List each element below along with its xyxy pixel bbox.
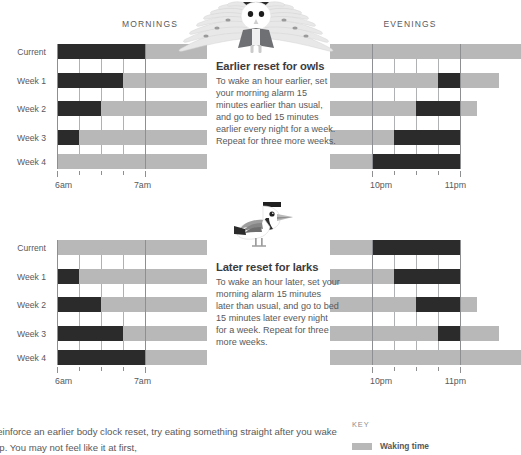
key-block: KEY Waking time [352,420,502,451]
lark-icon [233,196,295,248]
tick-mark [79,171,80,175]
axis-line-7am [145,44,146,169]
grid-line [123,255,124,269]
bar-row [330,154,471,169]
grid-line [101,145,102,155]
sleeping-time-bar [416,297,460,312]
tick-mark [101,367,102,371]
row-label-current: Current [17,47,46,57]
axis-line-11pm [460,240,461,365]
row-labels: CurrentWeek 1Week 2Week 3Week 4 [0,240,48,365]
waking-time-bar [330,73,499,88]
section-owls: MORNINGS EVENINGS CurrentWeek 1Week 2Wee… [0,0,501,200]
key-title: KEY [352,420,502,429]
axis-label-11pm: 11pm [438,180,466,190]
tick-mark [101,171,102,175]
sleeping-time-bar [57,73,123,88]
grid-line [438,255,439,269]
row-label-week-1: Week 1 [17,76,46,86]
tick-mark [460,171,461,177]
axis-label-10pm: 10pm [370,376,392,386]
bar-row [330,130,471,145]
tick-mark [438,367,439,371]
grid-line [123,116,124,130]
waking-time-bar [330,326,499,341]
waking-time-bar [145,350,207,365]
axis-label-6am: 6am [55,376,72,386]
key-label: Waking time [380,441,429,451]
chart-owls-evenings: 10pm11pm [330,44,501,176]
tick-mark [438,171,439,175]
grid-line [416,255,417,269]
grid-line [101,88,102,102]
tick-mark [79,367,80,371]
larks-title: Later reset for larks [216,261,340,273]
waking-time-bar [123,326,207,341]
tick-mark [123,367,124,371]
row-label-week-4: Week 4 [17,157,46,167]
grid-line [101,284,102,298]
axis-label-7am: 7am [123,180,151,190]
axis-ticks [57,171,205,177]
grid-line [123,341,124,351]
bar-row [330,101,471,116]
evenings-header: EVENINGS [330,19,490,29]
waking-time-bar [101,101,207,116]
chart-larks-evenings: 10pm11pm [330,240,501,372]
axis-line-10pm [372,44,373,169]
waking-time-bar [101,297,207,312]
sleeping-time-bar [57,297,101,312]
waking-time-bar [330,350,521,365]
grid-line [79,255,80,269]
grid-line [438,59,439,73]
tick-mark [145,171,146,177]
row-label-week-2: Week 2 [17,300,46,310]
grid-line [79,341,80,351]
plot-area: 6am7am [57,44,205,169]
plot-area: 10pm11pm [330,44,471,169]
grid-line [101,116,102,130]
bar-row [57,297,205,312]
row-labels: CurrentWeek 1Week 2Week 3Week 4 [0,44,48,169]
owl-icon [168,0,344,54]
footer: reinforce an earlier body clock reset, t… [0,402,501,452]
axis-line-7am [145,240,146,365]
row-label-week-1: Week 1 [17,272,46,282]
grid-line [416,88,417,102]
sleeping-time-bar [372,240,460,255]
key-row: Waking time [352,441,502,451]
grid-line [123,145,124,155]
axis-ticks [330,367,471,373]
axis-line-6am [57,44,58,169]
sleeping-time-bar [416,101,460,116]
grid-line [438,116,439,130]
axis-ticks [57,367,205,373]
bar-row [330,269,471,284]
bar-row [330,73,471,88]
row-label-week-3: Week 3 [17,329,46,339]
bar-row [330,350,471,365]
tick-mark [416,367,417,371]
grid-line [79,59,80,73]
bar-row [57,269,205,284]
grid-line [438,284,439,298]
grid-line [123,88,124,102]
bar-row [57,326,205,341]
axis-label-11pm: 11pm [438,376,466,386]
bar-row [57,73,205,88]
grid-line [123,284,124,298]
owls-text-block: Earlier reset for owls To wake an hour e… [216,60,340,148]
sleeping-time-bar [372,154,460,169]
sleeping-time-bar [57,44,145,59]
row-label-current: Current [17,243,46,253]
bar-row [330,326,471,341]
axis-label-6am: 6am [55,180,72,190]
grid-line [438,88,439,102]
waking-time-bar [79,269,207,284]
larks-text-block: Later reset for larks To wake an hour la… [216,261,340,349]
grid-line [416,284,417,298]
sleeping-time-bar [57,130,79,145]
grid-line [79,312,80,326]
axis-ticks [330,171,471,177]
tick-mark [145,367,146,373]
